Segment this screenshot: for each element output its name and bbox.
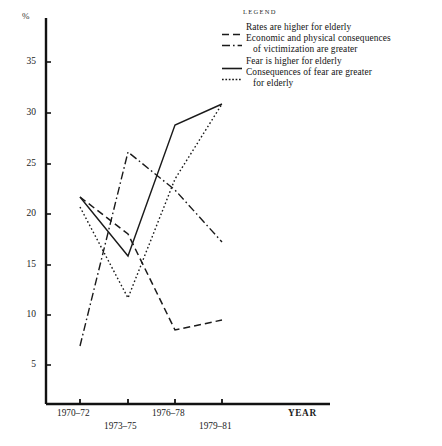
chart-legend: LEGEND Rates are higher for elderly Econ… xyxy=(222,8,438,89)
legend-swatch-solid-icon xyxy=(222,60,242,71)
y-axis-unit-label: % xyxy=(22,11,30,21)
x-tick-label-1970-72: 1970–72 xyxy=(57,408,90,418)
legend-swatch-dashed-icon xyxy=(222,26,242,37)
y-tick-label-20: 20 xyxy=(10,208,36,218)
legend-label-line1: Rates are higher for elderly xyxy=(246,22,351,32)
x-tick-label-1979-81: 1979–81 xyxy=(199,421,232,431)
legend-item-rates-higher: Rates are higher for elderly xyxy=(222,22,438,33)
x-tick-label-1973-75: 1973–75 xyxy=(104,421,137,431)
legend-item-economic-physical: Economic and physical consequences of vi… xyxy=(222,33,438,55)
legend-title: LEGEND xyxy=(243,8,438,15)
y-tick-label-5: 5 xyxy=(10,359,36,369)
series-line-consequences-fear xyxy=(80,104,222,298)
x-axis-title: YEAR xyxy=(288,408,317,418)
y-tick-label-25: 25 xyxy=(10,158,36,168)
legend-label-line1: Fear is higher for elderly xyxy=(246,56,342,66)
y-tick-label-15: 15 xyxy=(10,259,36,269)
series-line-fear-higher xyxy=(80,104,222,256)
y-tick-label-35: 35 xyxy=(10,56,36,66)
legend-label-consequences-fear: Consequences of fear are greater for eld… xyxy=(246,67,372,89)
legend-swatch-dash-dot-icon xyxy=(222,37,242,48)
x-tick-label-1976-78: 1976–78 xyxy=(152,408,185,418)
legend-label-line2: of victimization are greater xyxy=(246,44,391,55)
legend-item-consequences-fear: Consequences of fear are greater for eld… xyxy=(222,67,438,89)
legend-item-fear-higher: Fear is higher for elderly xyxy=(222,56,438,67)
legend-label-line1: Economic and physical consequences xyxy=(246,33,391,43)
series-line-economic-physical xyxy=(80,152,222,346)
legend-label-rates-higher: Rates are higher for elderly xyxy=(246,22,351,33)
y-tick-label-30: 30 xyxy=(10,107,36,117)
chart-figure: % 35 30 25 20 15 10 5 1970–72 1973–75 19… xyxy=(0,0,442,446)
legend-label-fear-higher: Fear is higher for elderly xyxy=(246,56,342,67)
legend-swatch-dotted-icon xyxy=(222,71,242,82)
legend-label-line2: for elderly xyxy=(246,78,372,89)
legend-label-line1: Consequences of fear are greater xyxy=(246,67,372,77)
legend-label-economic-physical: Economic and physical consequences of vi… xyxy=(246,33,391,55)
series-line-rates-higher xyxy=(80,197,222,330)
y-tick-label-10: 10 xyxy=(10,309,36,319)
